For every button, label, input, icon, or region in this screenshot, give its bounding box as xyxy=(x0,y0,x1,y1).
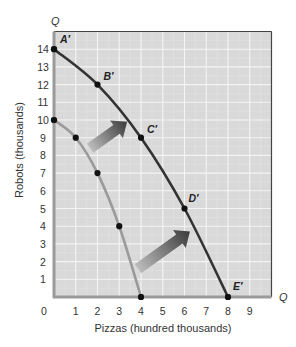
y-tick-label: 4 xyxy=(40,220,46,232)
point-label: D′ xyxy=(189,192,200,204)
y-tick-label: 11 xyxy=(38,96,49,108)
data-point xyxy=(94,170,100,176)
ppf-chart: A′B′C′D′E′ 01234567891234567891011121314… xyxy=(0,0,296,347)
x-axis-title: Pizzas (hundred thousands) xyxy=(95,322,232,334)
y-tick-label: 13 xyxy=(37,61,49,73)
y-tick-label: 3 xyxy=(40,238,46,250)
point-label: A′ xyxy=(59,33,71,45)
point-label: E′ xyxy=(233,280,243,292)
y-tick-label: 14 xyxy=(37,43,49,55)
x-tick-label: 1 xyxy=(73,305,79,317)
y-tick-label: 2 xyxy=(40,256,46,268)
y-tick-label: 9 xyxy=(40,132,46,144)
data-point xyxy=(138,135,144,141)
x-tick-label: 4 xyxy=(138,305,144,317)
x-tick-label: 3 xyxy=(116,305,122,317)
x-tick-label: 6 xyxy=(182,305,188,317)
x-tick-label: 0 xyxy=(41,305,47,317)
y-tick-label: 5 xyxy=(40,203,46,215)
x-tick-label: 5 xyxy=(160,305,166,317)
point-label: C′ xyxy=(147,123,158,135)
data-point xyxy=(181,205,187,211)
y-tick-label: 1 xyxy=(40,273,46,285)
y-tick-label: 12 xyxy=(37,79,49,91)
point-label: B′ xyxy=(104,70,115,82)
x-axis-end-label: Q xyxy=(279,291,288,303)
y-tick-label: 7 xyxy=(40,167,46,179)
data-point xyxy=(116,223,122,229)
y-tick-label: 10 xyxy=(37,114,49,126)
x-tick-label: 9 xyxy=(247,305,253,317)
data-point xyxy=(73,135,79,141)
y-axis-title: Robots (thousands) xyxy=(13,102,25,198)
x-tick-label: 8 xyxy=(225,305,231,317)
x-tick-label: 7 xyxy=(203,305,209,317)
y-tick-label: 8 xyxy=(40,149,46,161)
y-tick-label: 6 xyxy=(40,185,46,197)
y-axis-end-label: Q xyxy=(51,15,60,27)
data-point xyxy=(94,82,100,88)
x-tick-label: 2 xyxy=(95,305,101,317)
